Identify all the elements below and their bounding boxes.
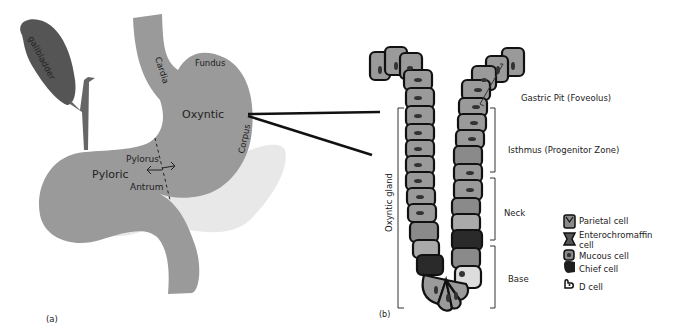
legend: Parietal cell Enterochromaffin cell Muco…	[564, 215, 653, 292]
legend-label-chief: Chief cell	[579, 264, 618, 274]
legend-label-d-cell: D cell	[579, 282, 603, 292]
oxyntic-label: Oxyntic	[182, 108, 224, 121]
caption-a: (a)	[46, 314, 58, 324]
legend-label-parietal: Parietal cell	[579, 216, 628, 226]
fundus-label: Fundus	[195, 58, 226, 68]
gastric-pit-label: Gastric Pit (Foveolus)	[521, 93, 611, 103]
base-bracket	[490, 246, 495, 308]
legend-label-enterochromaffin: Enterochromaffin	[579, 230, 653, 240]
oxyntic-gland-label: Oxyntic gland	[384, 173, 394, 232]
neck-label: Neck	[504, 208, 525, 218]
caption-b: (b)	[379, 310, 390, 319]
antrum-label: Antrum	[130, 182, 164, 192]
parietal-cell-icon	[564, 215, 575, 228]
pylorus-label: Pylorus	[126, 154, 159, 164]
chief-cell-icon	[564, 261, 575, 273]
isthmus-label: Isthmus (Progenitor Zone)	[508, 145, 619, 155]
enterochromaffin-cell-icon	[564, 233, 575, 245]
pointer-line-top	[248, 112, 380, 114]
diagram-canvas: gallbladder Cardia Fundus Oxyntic Corpus…	[0, 0, 676, 334]
legend-label-mucous: Mucous cell	[579, 251, 629, 261]
pyloric-label: Pyloric	[92, 168, 129, 181]
base-label: Base	[508, 274, 529, 284]
cell-nuclei	[378, 62, 515, 302]
oxyntic-gland-bracket	[398, 108, 404, 308]
mucous-cell-icon	[564, 250, 574, 260]
d-cell-icon	[565, 280, 573, 288]
legend-label-enterochromaffin-2: cell	[579, 240, 594, 250]
neck-bracket	[490, 178, 495, 240]
isthmus-bracket	[490, 108, 495, 172]
